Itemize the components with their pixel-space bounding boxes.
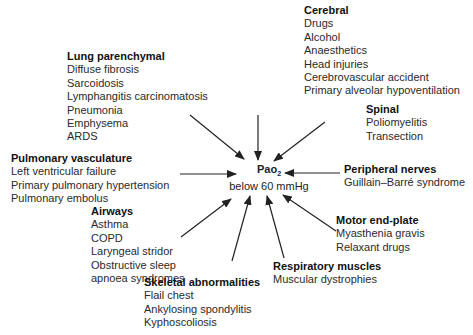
list-item: Head injuries [304,58,460,71]
list-item: Alcohol [304,31,460,44]
list-item: Left ventricular failure [11,165,169,178]
list-item: Guillain–Barré syndrome [344,176,465,189]
arrow-airways [181,199,231,237]
list-item: Emphysema [67,117,208,130]
group-spinal: Spinal Poliomyelitis Transection [366,103,427,143]
list-item: Cerebrovascular accident [304,71,460,84]
list-item: Anaesthetics [304,44,460,57]
list-item: COPD [91,232,185,245]
list-item: Sarcoidosis [67,77,208,90]
list-item: Myasthenia gravis [336,227,425,240]
list-item: ARDS [67,130,208,143]
group-airways: Airways Asthma COPD Laryngeal stridor Ob… [91,205,185,285]
list-item: Muscular dystrophies [273,273,381,286]
center-node-pao2: Pao2 below 60 mmHg [219,163,319,193]
list-item: Obstructive sleep [91,259,185,272]
list-item: Kyphoscoliosis [144,316,260,329]
list-item: Laryngeal stridor [91,245,185,258]
group-title: Skeletal abnormalities [144,276,260,289]
group-title: Spinal [366,103,427,116]
group-skeletal-abnormalities: Skeletal abnormalities Flail chest Ankyl… [144,276,260,330]
pao2-label: Pao2 [219,163,319,180]
group-title: Cerebral [304,4,460,17]
list-item: Primary pulmonary hypertension [11,179,169,192]
list-item: Pneumonia [67,104,208,117]
list-item: Pulmonary embolus [11,192,169,205]
list-item: Asthma [91,218,185,231]
list-item: Diffuse fibrosis [67,63,208,76]
group-title: Lung parenchymal [67,50,208,63]
list-item: Relaxant drugs [336,241,425,254]
list-item: Poliomyelitis [366,116,427,129]
list-item: Primary alveolar hypoventilation [304,84,460,97]
group-title: Airways [91,205,185,218]
list-item: Transection [366,130,427,143]
list-item: Ankylosing spondylitis [144,303,260,316]
group-title: Peripheral nerves [344,163,465,176]
arrow-motor-end-plate [283,195,336,231]
group-lung-parenchymal: Lung parenchymal Diffuse fibrosis Sarcoi… [67,50,208,144]
group-pulmonary-vasculature: Pulmonary vasculature Left ventricular f… [11,152,169,206]
group-motor-end-plate: Motor end-plate Myasthenia gravis Relaxa… [336,214,425,254]
arrow-spinal [274,122,325,161]
pao2-threshold: below 60 mmHg [219,180,319,193]
group-title: Respiratory muscles [273,260,381,273]
arrow-skeletal [232,196,250,261]
group-title: Pulmonary vasculature [11,152,169,165]
list-item: Drugs [304,17,460,30]
list-item: Flail chest [144,289,260,302]
group-respiratory-muscles: Respiratory muscles Muscular dystrophies [273,260,381,287]
group-peripheral-nerves: Peripheral nerves Guillain–Barré syndrom… [344,163,465,190]
group-title: Motor end-plate [336,214,425,227]
list-item: Lymphangitis carcinomatosis [67,90,208,103]
group-cerebral: Cerebral Drugs Alcohol Anaesthetics Head… [304,4,460,98]
arrow-respiratory-muscles [267,196,284,258]
